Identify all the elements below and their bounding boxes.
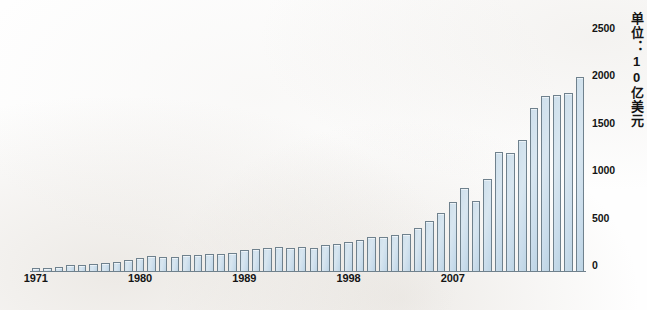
chart-bar [449, 202, 458, 272]
chart-bar [344, 242, 353, 272]
chart-bar [356, 240, 365, 272]
x-axis-tick: 1989 [232, 272, 256, 284]
y-axis-tick: 2000 [592, 69, 615, 81]
chart-bar [182, 255, 191, 272]
chart-bar [483, 179, 492, 272]
chart-bar [425, 221, 434, 272]
bars-layer [30, 21, 586, 272]
chart-bar [286, 248, 295, 272]
chart-bar [205, 254, 214, 272]
chart-bar [379, 237, 388, 272]
y-axis-tick: 500 [592, 212, 609, 224]
x-axis-tick: 1998 [336, 272, 360, 284]
chart-bar [391, 235, 400, 272]
unit-caption-label: 单位：10亿美元 [630, 12, 643, 128]
chart-bar [495, 152, 504, 272]
bar-chart-figure: 05001000150020002500 1971198019891998200… [0, 0, 647, 310]
y-axis-tick: 1500 [592, 117, 615, 129]
y-axis-tick-labels: 05001000150020002500 [592, 0, 628, 290]
plot-area [30, 14, 586, 272]
y-axis-tick: 0 [592, 259, 598, 271]
chart-bar [553, 95, 562, 272]
chart-bar [564, 93, 573, 272]
chart-bar [541, 96, 550, 272]
chart-bar [437, 213, 446, 272]
chart-bar [402, 234, 411, 272]
x-axis-tick: 1980 [128, 272, 152, 284]
chart-bar [159, 257, 168, 272]
chart-bar [333, 244, 342, 273]
chart-bar [217, 254, 226, 272]
chart-bar [367, 237, 376, 272]
chart-bar [147, 256, 156, 272]
chart-bar [240, 250, 249, 272]
chart-bar [263, 248, 272, 272]
chart-bar [275, 247, 284, 272]
chart-bar [310, 248, 319, 272]
y-axis-tick: 1000 [592, 164, 615, 176]
chart-bar [321, 245, 330, 272]
chart-bar [228, 253, 237, 272]
y-axis-tick: 2500 [592, 22, 615, 34]
chart-bar [298, 247, 307, 272]
x-axis-tick-labels: 19711980198919982007 [0, 272, 647, 292]
chart-bar [171, 257, 180, 272]
x-axis-tick: 2007 [441, 272, 465, 284]
chart-bar [136, 258, 145, 272]
chart-bar [472, 201, 481, 272]
chart-bar [460, 188, 469, 272]
x-axis-tick: 1971 [24, 272, 48, 284]
chart-bar [576, 77, 585, 272]
chart-bar [518, 140, 527, 272]
chart-bar [252, 249, 261, 272]
chart-bar [506, 153, 515, 272]
chart-bar [194, 255, 203, 272]
chart-bar [530, 108, 539, 272]
chart-bar [414, 228, 423, 272]
